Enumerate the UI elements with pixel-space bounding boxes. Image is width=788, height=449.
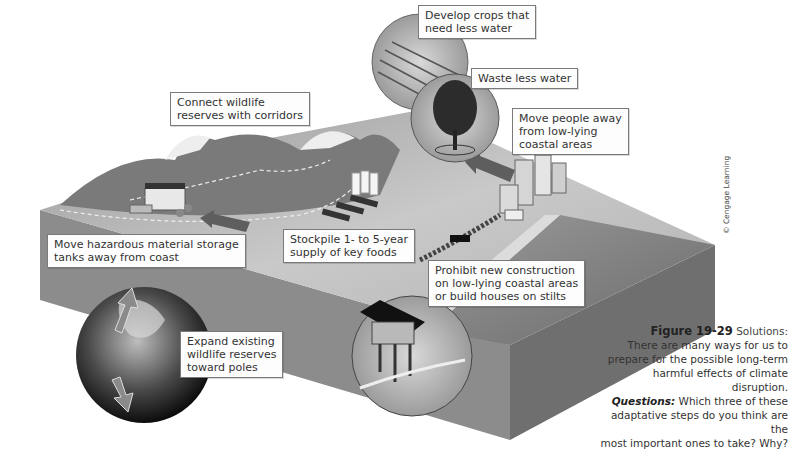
caption-heading: Figure 19-29 Solutions: [598, 324, 788, 338]
callout-line: toward poles [187, 361, 276, 374]
callout-waste-less-water: Waste less water [471, 68, 578, 89]
questions-line: Questions: Which three of these [598, 394, 788, 408]
figure-number: Figure 19-29 [650, 324, 732, 338]
caption-line: harmful effects of climate disruption. [598, 366, 788, 394]
callout-line: Move hazardous material storage [54, 238, 239, 251]
copyright-credit: © Cengage Learning [722, 156, 731, 234]
figure-caption: Figure 19-29 Solutions: There are many w… [598, 324, 788, 449]
callout-line: need less water [425, 22, 529, 35]
callout-line: from low-lying [519, 125, 622, 138]
callout-line: Stockpile 1- to 5-year [290, 233, 408, 246]
callout-line: on low-lying coastal areas [435, 277, 578, 290]
callout-move-people-away: Move people away from low-lying coastal … [512, 108, 629, 155]
callout-line: coastal areas [519, 138, 622, 151]
stilt-house-inset [352, 296, 472, 416]
callout-move-hazardous-storage: Move hazardous material storage tanks aw… [47, 234, 246, 268]
callout-prohibit-construction: Prohibit new construction on low-lying c… [428, 260, 585, 307]
caption-line: adaptative steps do you think are the [598, 408, 788, 436]
callout-connect-wildlife-reserves: Connect wildlife reserves with corridors [170, 92, 310, 126]
callout-line: Waste less water [478, 72, 571, 85]
caption-line: prepare for the possible long-term [598, 352, 788, 366]
question-text: Which three of these [679, 395, 788, 407]
questions-label: Questions: [612, 395, 676, 407]
callout-expand-wildlife-reserves: Expand existing wildlife reserves toward… [180, 331, 283, 378]
callout-line: Develop crops that [425, 9, 529, 22]
callout-line: or build houses on stilts [435, 290, 578, 303]
callout-line: Connect wildlife [177, 96, 303, 109]
callout-stockpile-foods: Stockpile 1- to 5-year supply of key foo… [283, 229, 415, 263]
caption-line: There are many ways for us to [598, 338, 788, 352]
callout-line: Expand existing [187, 335, 276, 348]
callout-line: Prohibit new construction [435, 264, 578, 277]
callout-develop-crops: Develop crops that need less water [418, 5, 536, 39]
callout-line: tanks away from coast [54, 251, 239, 264]
callout-line: Move people away [519, 112, 622, 125]
callout-line: supply of key foods [290, 246, 408, 259]
figure-title: Solutions: [736, 325, 788, 337]
caption-line: most important ones to take? Why? [598, 436, 788, 449]
callout-line: wildlife reserves [187, 348, 276, 361]
callout-line: reserves with corridors [177, 109, 303, 122]
